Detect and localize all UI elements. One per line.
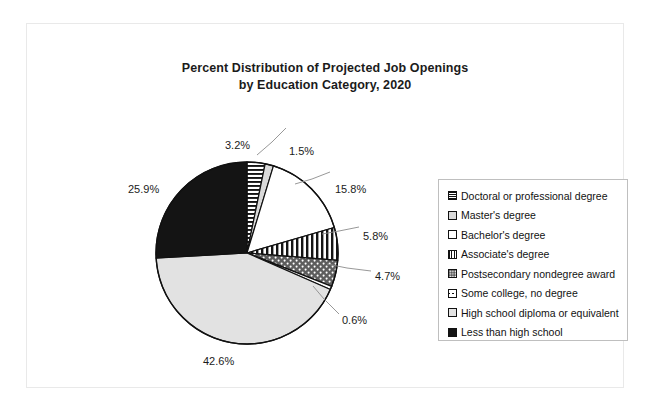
legend-label-high-school-diploma-or-equivalent: High school diploma or equivalent bbox=[461, 307, 619, 319]
slice-label-high-school-diploma-or-equivalent: 42.6% bbox=[203, 355, 234, 367]
legend-label-doctoral-or-professional-degree: Doctoral or professional degree bbox=[461, 190, 608, 202]
legend-label-postsecondary-nondegree-award: Postsecondary nondegree award bbox=[461, 268, 615, 280]
legend-label-bachelors-degree: Bachelor's degree bbox=[461, 229, 545, 241]
legend-swatch-icon-high-school-diploma-or-equivalent bbox=[448, 308, 457, 317]
legend-item-masters-degree[interactable]: Master's degree bbox=[448, 206, 621, 226]
legend-label-less-than-high-school: Less than high school bbox=[461, 326, 563, 338]
legend-item-some-college-no-degree[interactable]: Some college, no degree bbox=[448, 284, 621, 304]
legend-item-postsecondary-nondegree-award[interactable]: Postsecondary nondegree award bbox=[448, 264, 621, 284]
slice-label-doctoral-or-professional-degree: 3.2% bbox=[225, 139, 250, 151]
legend-label-masters-degree: Master's degree bbox=[461, 209, 536, 221]
chart-legend: Doctoral or professional degree Master's… bbox=[438, 179, 628, 341]
legend-label-associates-degree: Associate's degree bbox=[461, 248, 549, 260]
legend-item-less-than-high-school[interactable]: Less than high school bbox=[448, 323, 621, 343]
legend-swatch-icon-bachelors-degree bbox=[448, 230, 457, 239]
slice-label-masters-degree: 1.5% bbox=[289, 145, 314, 157]
legend-item-bachelors-degree[interactable]: Bachelor's degree bbox=[448, 225, 621, 245]
legend-item-associates-degree[interactable]: Associate's degree bbox=[448, 245, 621, 265]
legend-swatch-icon-associates-degree bbox=[448, 250, 457, 259]
legend-swatch-icon-masters-degree bbox=[448, 211, 457, 220]
legend-label-some-college-no-degree: Some college, no degree bbox=[461, 287, 578, 299]
legend-swatch-icon-doctoral-or-professional-degree bbox=[448, 191, 457, 200]
slice-label-postsecondary-nondegree-award: 4.7% bbox=[375, 270, 400, 282]
slice-label-associates-degree: 5.8% bbox=[363, 230, 388, 242]
legend-item-doctoral-or-professional-degree[interactable]: Doctoral or professional degree bbox=[448, 186, 621, 206]
page-frame: Percent Distribution of Projected Job Op… bbox=[26, 23, 624, 388]
legend-swatch-icon-some-college-no-degree bbox=[448, 289, 457, 298]
slice-label-some-college-no-degree: 0.6% bbox=[342, 314, 367, 326]
legend-swatch-icon-less-than-high-school bbox=[448, 328, 457, 337]
slice-label-less-than-high-school: 25.9% bbox=[128, 183, 159, 195]
legend-swatch-icon-postsecondary-nondegree-award bbox=[448, 269, 457, 278]
slice-label-bachelors-degree: 15.8% bbox=[335, 183, 366, 195]
legend-item-high-school-diploma-or-equivalent[interactable]: High school diploma or equivalent bbox=[448, 303, 621, 323]
